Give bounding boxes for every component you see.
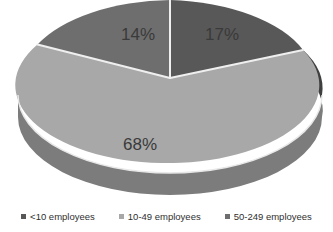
legend-item-50-249-employees[interactable]: 50-249 employees: [225, 211, 312, 222]
legend-label: 50-249 employees: [234, 211, 312, 222]
pie-chart-canvas: 17% 68% 14%: [0, 0, 333, 232]
legend-swatch-icon: [225, 214, 230, 219]
data-label-under-10-employees: 17%: [205, 25, 239, 44]
legend-swatch-icon: [21, 214, 26, 219]
legend-label: <10 employees: [30, 211, 95, 222]
legend-swatch-icon: [119, 214, 124, 219]
pie-chart: 17% 68% 14% <10 employees 10-49 employee…: [0, 0, 333, 232]
data-label-50-249-employees: 14%: [121, 25, 155, 44]
chart-legend: <10 employees 10-49 employees 50-249 emp…: [0, 206, 333, 226]
data-label-10-49-employees: 68%: [123, 135, 157, 154]
legend-item-10-49-employees[interactable]: 10-49 employees: [119, 211, 201, 222]
legend-label: 10-49 employees: [128, 211, 201, 222]
legend-item-under-10-employees[interactable]: <10 employees: [21, 211, 95, 222]
pie-top-faces: [15, 0, 319, 163]
